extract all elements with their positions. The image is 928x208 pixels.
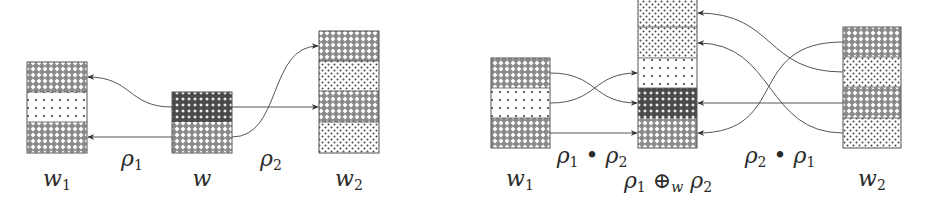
- diagram-canvas: [0, 0, 928, 208]
- segment-crosshatch-dark: [638, 88, 697, 118]
- bullet-operator: •: [579, 143, 606, 168]
- segment-crosshatch: [27, 62, 87, 92]
- label-subscript: 1: [62, 177, 71, 193]
- label-w2-left: w2: [335, 166, 363, 193]
- label-text: ρ: [260, 146, 273, 171]
- segment-dots-dense: [319, 122, 379, 153]
- segment-crosshatch: [491, 58, 550, 88]
- segment-dots-dense: [843, 57, 901, 87]
- box-w1-right: [491, 58, 550, 148]
- label-subscript: 2: [877, 177, 886, 193]
- label-subscript: 1: [134, 157, 143, 173]
- segment-crosshatch: [491, 118, 550, 148]
- label-rho1: ρ1: [121, 146, 143, 173]
- segment-dots-dense: [638, 27, 697, 58]
- box-merge: [638, 0, 697, 148]
- arrow-w2-seg2-to-merge-seg1: [698, 13, 843, 72]
- label-text: ρ: [605, 143, 618, 168]
- arrow-w-to-w1-top: [88, 77, 172, 107]
- segment-dots-dense: [638, 0, 697, 27]
- box-w1-left: [27, 62, 87, 153]
- segment-crosshatch: [27, 122, 87, 153]
- label-subscript: 1: [806, 154, 815, 170]
- label-text: ρ: [793, 143, 806, 168]
- segment-crosshatch: [319, 91, 379, 122]
- label-subscript: 1: [570, 154, 579, 170]
- label-text: w: [858, 166, 877, 191]
- segment-dots-dense: [319, 61, 379, 91]
- segment-dots-sparse: [491, 88, 550, 118]
- label-subscript: 2: [758, 154, 767, 170]
- segment-crosshatch: [172, 122, 232, 153]
- label-w1-right: w1: [506, 166, 534, 193]
- label-subscript: 1: [637, 179, 646, 195]
- label-subscript: 1: [525, 177, 534, 193]
- label-w2-right: w2: [858, 166, 886, 193]
- segment-crosshatch-dark: [172, 92, 232, 122]
- label-text: ρ: [745, 143, 758, 168]
- label-rho2-compose-rho1: ρ2 • ρ1: [745, 143, 816, 170]
- label-rho1-compose-rho2: ρ1 • ρ2: [557, 143, 628, 170]
- box-w2-left: [319, 31, 379, 153]
- label-subscript: 2: [273, 157, 282, 173]
- arrow-w2-seg1-to-merge-seg5: [698, 42, 843, 133]
- arrow-w1-seg1-to-merge-seg4: [550, 73, 637, 103]
- bullet-operator: •: [767, 143, 794, 168]
- label-text: ρ: [121, 146, 134, 171]
- box-w2-right: [843, 27, 901, 148]
- label-text: ρ: [557, 143, 570, 168]
- label-subscript: 2: [703, 179, 712, 195]
- label-w: w: [193, 166, 212, 191]
- oplus-operator: ⊕: [646, 168, 671, 193]
- left-diagram: [27, 31, 379, 153]
- label-subscript: w: [671, 179, 683, 195]
- segment-crosshatch: [843, 87, 901, 118]
- segment-dots-sparse: [27, 92, 87, 122]
- label-text: ρ: [624, 168, 637, 193]
- label-rho1-merge-rho2: ρ1 ⊕w ρ2: [624, 168, 712, 195]
- label-text: w: [335, 166, 354, 191]
- segment-dots-dense: [843, 118, 901, 148]
- arrow-w-to-w2-top: [232, 46, 318, 137]
- label-rho2: ρ2: [260, 146, 282, 173]
- segment-crosshatch: [843, 27, 901, 57]
- label-w1-left: w1: [43, 166, 71, 193]
- arrow-w1-seg2-to-merge-seg3: [550, 73, 637, 103]
- right-diagram: [491, 0, 901, 148]
- box-w: [172, 92, 232, 153]
- segment-dots-sparse: [638, 58, 697, 88]
- label-text: w: [506, 166, 525, 191]
- arrow-w2-seg4-to-merge-seg2: [698, 43, 843, 133]
- label-subscript: 2: [354, 177, 363, 193]
- segment-crosshatch: [638, 118, 697, 148]
- label-text: w: [43, 166, 62, 191]
- segment-crosshatch: [319, 31, 379, 61]
- label-text: ρ: [683, 168, 703, 193]
- label-text: w: [193, 166, 212, 191]
